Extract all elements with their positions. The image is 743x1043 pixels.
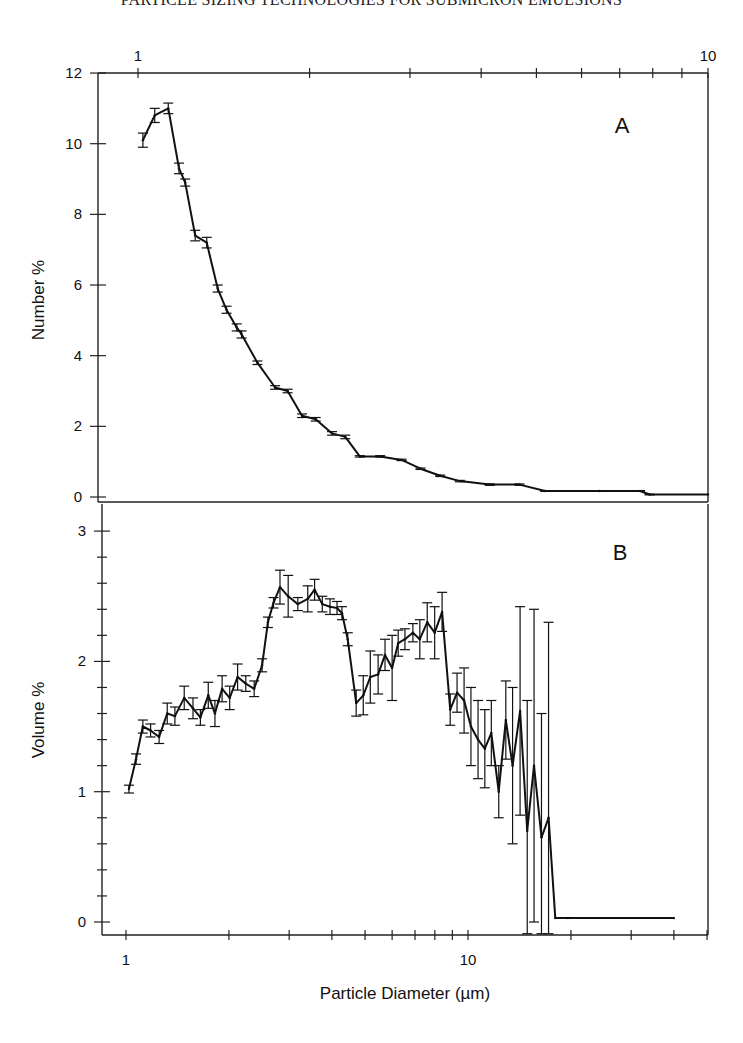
data-point xyxy=(272,602,274,604)
data-point xyxy=(505,719,507,721)
data-point xyxy=(439,475,441,477)
data-point xyxy=(178,167,180,169)
data-point xyxy=(236,676,238,678)
data-point xyxy=(245,682,247,684)
data-point xyxy=(297,603,299,605)
data-point xyxy=(639,490,641,492)
figure: 110024681012Number %A 1100123Volume %Par… xyxy=(0,0,743,1043)
data-point xyxy=(194,234,196,236)
data-point xyxy=(533,764,535,766)
y-tick-label: 10 xyxy=(65,135,82,152)
data-point xyxy=(391,667,393,669)
data-point xyxy=(149,729,151,731)
data-point xyxy=(331,432,333,434)
data-point xyxy=(313,589,315,591)
data-point xyxy=(456,691,458,693)
data-point xyxy=(256,362,258,364)
data-point xyxy=(314,418,316,420)
data-point xyxy=(236,326,238,328)
data-point xyxy=(142,139,144,141)
data-point xyxy=(433,632,435,634)
data-point xyxy=(459,480,461,482)
data-point xyxy=(228,697,230,699)
data-point xyxy=(221,688,223,690)
data-point xyxy=(214,712,216,714)
data-point xyxy=(449,708,451,710)
panel-label: B xyxy=(613,540,628,565)
data-point xyxy=(355,702,357,704)
data-point xyxy=(225,309,227,311)
data-point xyxy=(301,415,303,417)
x-tick-label: 10 xyxy=(460,951,477,968)
data-point xyxy=(498,791,500,793)
x-tick-label: 1 xyxy=(134,47,142,64)
y-tick-label: 1 xyxy=(78,783,86,800)
y-axis-title: Volume % xyxy=(29,682,48,759)
data-point xyxy=(362,694,364,696)
data-point xyxy=(274,386,276,388)
data-point xyxy=(128,788,130,790)
data-point xyxy=(183,697,185,699)
panel-a: 110024681012Number %A xyxy=(29,47,716,505)
data-point xyxy=(488,483,490,485)
data-point xyxy=(567,917,569,919)
data-point xyxy=(377,673,379,675)
y-tick-label: 2 xyxy=(74,417,82,434)
data-point xyxy=(554,917,556,919)
panel-b: 1100123Volume %Particle Diameter (µm)B xyxy=(29,504,708,1003)
data-point xyxy=(199,716,201,718)
x-tick-label: 1 xyxy=(122,951,130,968)
data-point xyxy=(135,758,137,760)
data-point xyxy=(673,917,675,919)
data-point xyxy=(347,638,349,640)
data-point xyxy=(519,710,521,712)
data-point xyxy=(184,181,186,183)
data-point xyxy=(412,632,414,634)
data-point xyxy=(547,817,549,819)
data-point xyxy=(400,459,402,461)
series-line xyxy=(129,587,674,918)
y-tick-label: 0 xyxy=(74,488,82,505)
data-point xyxy=(490,732,492,734)
data-point xyxy=(207,694,209,696)
data-point xyxy=(379,455,381,457)
x-tick-label: 10 xyxy=(700,47,717,64)
data-point xyxy=(518,483,520,485)
y-tick-label: 2 xyxy=(78,652,86,669)
panel-label: A xyxy=(615,113,630,138)
data-point xyxy=(174,715,176,717)
data-point xyxy=(321,603,323,605)
data-point xyxy=(253,688,255,690)
data-point xyxy=(286,390,288,392)
data-point xyxy=(287,595,289,597)
series-line xyxy=(143,108,708,494)
data-point xyxy=(154,114,156,116)
data-point xyxy=(419,638,421,640)
x-axis-title: Particle Diameter (µm) xyxy=(320,984,490,1003)
data-point xyxy=(526,830,528,832)
data-point xyxy=(369,676,371,678)
data-point xyxy=(648,493,650,495)
data-point xyxy=(441,611,443,613)
data-point xyxy=(511,764,513,766)
data-point xyxy=(463,699,465,701)
y-tick-label: 6 xyxy=(74,276,82,293)
data-point xyxy=(192,707,194,709)
data-point xyxy=(540,836,542,838)
y-axis-title: Number % xyxy=(29,260,48,340)
data-point xyxy=(384,654,386,656)
data-point xyxy=(206,241,208,243)
data-point xyxy=(404,638,406,640)
y-tick-label: 4 xyxy=(74,347,82,364)
data-point xyxy=(341,612,343,614)
data-point xyxy=(397,642,399,644)
y-tick-label: 0 xyxy=(78,913,86,930)
y-tick-label: 8 xyxy=(74,205,82,222)
data-point xyxy=(477,738,479,740)
data-point xyxy=(261,664,263,666)
data-point xyxy=(166,712,168,714)
data-point xyxy=(419,468,421,470)
data-point xyxy=(426,621,428,623)
data-point xyxy=(344,436,346,438)
data-point xyxy=(484,748,486,750)
